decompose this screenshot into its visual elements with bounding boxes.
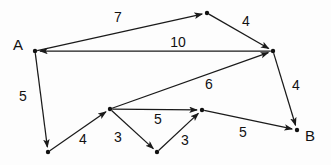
graph-svg	[0, 0, 331, 165]
graph-node[interactable]	[271, 49, 275, 53]
edge-weight-label: 10	[170, 35, 186, 49]
node-label-b: B	[305, 128, 315, 143]
graph-node[interactable]	[205, 11, 209, 15]
graph-edge	[209, 14, 269, 48]
graph-node[interactable]	[155, 150, 159, 154]
graph-edge	[112, 109, 197, 110]
graph-edge	[159, 113, 199, 150]
edge-weight-label: 5	[239, 125, 247, 139]
graph-edge	[50, 112, 106, 151]
edge-layer	[35, 14, 295, 151]
edge-weight-label: 6	[205, 77, 213, 91]
graph-edge	[35, 53, 47, 147]
edge-weight-label: 5	[19, 89, 27, 103]
graph-edge	[112, 53, 268, 109]
graph-node[interactable]	[108, 107, 112, 111]
graph-node[interactable]	[46, 150, 50, 154]
edge-weight-label: 7	[114, 10, 122, 24]
graph-node[interactable]	[33, 49, 37, 53]
edge-weight-label: 4	[292, 78, 300, 92]
node-layer	[33, 11, 299, 154]
edge-weight-label: 4	[79, 132, 87, 146]
edge-weight-label: 3	[181, 133, 189, 147]
graph-node[interactable]	[200, 108, 204, 112]
graph-node[interactable]	[295, 128, 299, 132]
edge-weight-label: 4	[242, 14, 250, 28]
graph-diagram-canvas: 741056443535 AB	[0, 0, 331, 165]
edge-weight-label: 5	[154, 112, 162, 126]
edge-weight-label: 3	[114, 130, 122, 144]
node-label-a: A	[13, 37, 23, 52]
graph-edge	[204, 110, 292, 129]
